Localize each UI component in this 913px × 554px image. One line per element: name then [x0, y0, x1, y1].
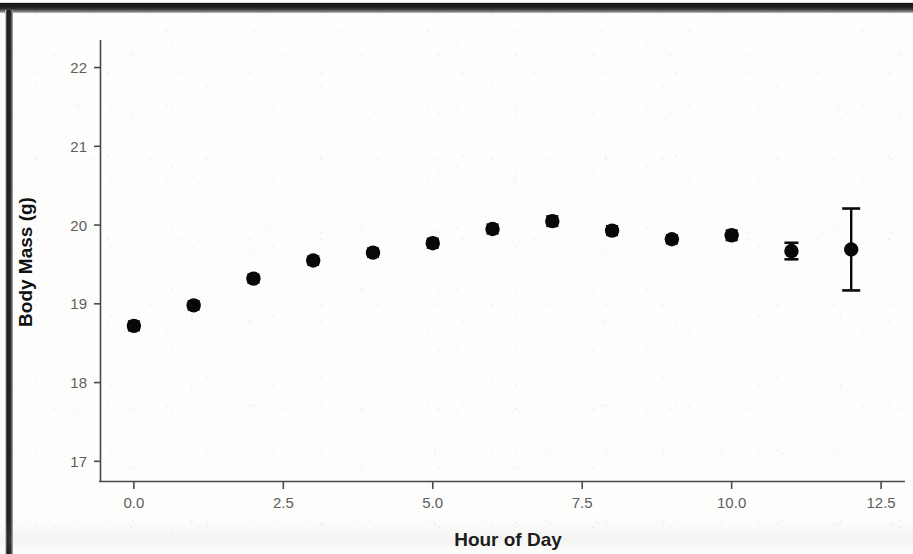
data-point-group	[186, 298, 200, 312]
data-point-marker	[724, 228, 738, 242]
x-tick-label: 0.0	[123, 494, 144, 511]
data-point-marker	[784, 244, 798, 258]
y-tick-label: 22	[70, 59, 87, 76]
data-point-marker	[485, 222, 499, 236]
data-point-marker	[665, 232, 679, 246]
data-point-marker	[545, 214, 559, 228]
x-axis-ticks: 0.02.55.07.510.012.5	[123, 482, 895, 511]
y-tick-label: 19	[70, 295, 87, 312]
data-point-group	[784, 243, 798, 260]
data-point-marker	[246, 271, 260, 285]
data-point-group	[605, 223, 619, 237]
data-point-group	[127, 319, 141, 333]
data-point-marker	[426, 236, 440, 250]
x-tick-label: 12.5	[866, 494, 895, 511]
data-point-group	[485, 222, 499, 236]
x-axis-title: Hour of Day	[454, 529, 562, 550]
data-point-group	[426, 236, 440, 250]
x-tick-label: 7.5	[572, 494, 593, 511]
data-point-group	[306, 253, 320, 267]
body-mass-scatter-chart: Body Mass (g) Hour of Day 171819202122 0…	[0, 0, 913, 554]
data-point-marker	[605, 223, 619, 237]
y-tick-label: 20	[70, 217, 87, 234]
data-point-marker	[844, 242, 858, 256]
data-point-group	[545, 214, 559, 228]
data-point-marker	[366, 245, 380, 259]
y-tick-label: 18	[70, 374, 87, 391]
y-axis-ticks: 171819202122	[70, 59, 100, 470]
data-point-marker	[306, 253, 320, 267]
data-point-group	[366, 245, 380, 259]
data-point-marker	[186, 298, 200, 312]
data-point-group	[246, 271, 260, 285]
y-tick-label: 21	[70, 138, 87, 155]
data-point-marker	[127, 319, 141, 333]
x-tick-label: 2.5	[273, 494, 294, 511]
chart-figure: Body Mass (g) Hour of Day 171819202122 0…	[0, 0, 913, 554]
data-point-group	[665, 232, 679, 246]
data-point-group	[842, 209, 860, 291]
data-point-group	[724, 228, 738, 242]
x-tick-label: 10.0	[717, 494, 746, 511]
y-axis-title: Body Mass (g)	[15, 197, 36, 327]
x-tick-label: 5.0	[422, 494, 443, 511]
data-points-layer	[127, 209, 861, 334]
scanned-page: Body Mass (g) Hour of Day 171819202122 0…	[0, 0, 913, 554]
y-tick-label: 17	[70, 453, 87, 470]
